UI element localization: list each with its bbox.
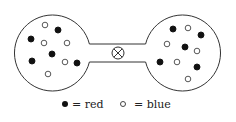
blue-particle xyxy=(174,59,180,65)
closed-valve-icon xyxy=(112,47,124,59)
red-particle xyxy=(157,59,163,65)
blue-particle xyxy=(64,40,70,46)
blue-particle xyxy=(194,48,200,54)
red-particle xyxy=(28,36,34,42)
filled-dot-icon xyxy=(62,101,68,107)
legend-red-label: = red xyxy=(72,98,104,111)
legend-red: = red xyxy=(62,97,104,111)
red-particle xyxy=(182,44,188,50)
blue-particle xyxy=(185,76,191,82)
legend-blue: = blue xyxy=(120,97,171,111)
blue-particle xyxy=(42,22,48,28)
blue-particle xyxy=(164,41,170,47)
blue-particle xyxy=(62,59,68,65)
blue-particle xyxy=(185,25,191,31)
legend-blue-label: = blue xyxy=(134,98,171,111)
open-dot-icon xyxy=(120,101,126,107)
blue-particle xyxy=(45,71,51,77)
red-particle xyxy=(49,51,55,57)
red-particle xyxy=(198,32,204,38)
red-particle xyxy=(170,26,176,32)
red-particle xyxy=(194,64,200,70)
right-vessel xyxy=(146,15,221,91)
two-vessel-diagram xyxy=(0,0,236,122)
blue-particle xyxy=(41,40,47,46)
red-particle xyxy=(74,60,80,66)
red-particle xyxy=(29,58,35,64)
red-particle xyxy=(55,27,61,33)
